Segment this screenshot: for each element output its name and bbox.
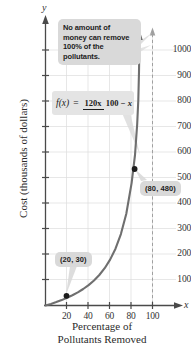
function-formula: f(x) = 120x 100 − x bbox=[56, 93, 132, 113]
note-line-3: 100% of the bbox=[63, 42, 137, 52]
formula-fx: f(x) bbox=[56, 98, 69, 108]
data-point-markers bbox=[64, 166, 138, 299]
note-line-4: pollutants. bbox=[63, 52, 137, 62]
point-marker-80-480 bbox=[132, 166, 138, 172]
x-axis-letter: x bbox=[184, 300, 188, 310]
y-tick-label-300: 300 bbox=[161, 224, 191, 234]
point-marker-20-30 bbox=[64, 293, 70, 299]
point-label-80-480: (80, 480) bbox=[140, 181, 181, 196]
formula-fraction: 120x 100 − x bbox=[83, 99, 132, 108]
y-tick-label-700: 700 bbox=[161, 122, 191, 132]
x-axis-title-line2: Pollutants Removed bbox=[22, 333, 182, 346]
y-tick-label-1000: 1000 bbox=[161, 45, 191, 55]
y-tick-label-800: 800 bbox=[161, 96, 191, 106]
y-tick-label-100: 100 bbox=[161, 275, 191, 285]
function-graph-figure: 1000 900 800 700 600 500 400 300 200 100… bbox=[0, 0, 191, 352]
x-axis-title: Percentage of Pollutants Removed bbox=[22, 320, 182, 346]
formula-equals: = bbox=[73, 98, 78, 108]
y-tick-label-200: 200 bbox=[161, 249, 191, 259]
formula-denominator-a: 100 bbox=[106, 98, 119, 108]
formula-denominator-b: x bbox=[128, 98, 132, 108]
y-tick-label-400: 400 bbox=[161, 198, 191, 208]
y-axis bbox=[42, 15, 49, 306]
y-tick-label-900: 900 bbox=[161, 71, 191, 81]
note-line-1: No amount of bbox=[63, 23, 137, 33]
x-axis bbox=[44, 302, 183, 309]
y-tick-label-600: 600 bbox=[161, 147, 191, 157]
point-label-20-30: (20, 30) bbox=[55, 252, 92, 267]
horizontal-gridlines bbox=[45, 50, 176, 280]
formula-denominator-minus: − bbox=[121, 98, 126, 108]
formula-denominator: 100 − x bbox=[106, 97, 132, 108]
asymptote-note-callout: No amount of money can remove 100% of th… bbox=[58, 19, 141, 65]
y-axis-title: Cost (thousands of dollars) bbox=[18, 74, 29, 244]
y-axis-letter: y bbox=[42, 3, 46, 13]
formula-numerator: 120x bbox=[83, 98, 104, 110]
note-line-2: money can remove bbox=[63, 33, 137, 43]
x-axis-title-line1: Percentage of bbox=[22, 320, 182, 333]
